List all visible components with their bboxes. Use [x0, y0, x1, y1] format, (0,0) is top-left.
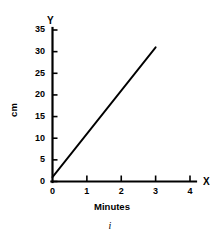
- x-tick-label: 1: [84, 186, 89, 196]
- line-chart: 05101520253035 01234 Y X Minutes cm i: [0, 0, 221, 237]
- y-axis-title: cm: [8, 103, 19, 117]
- x-axis-title: Minutes: [94, 201, 130, 212]
- x-tick-label: 4: [187, 186, 192, 196]
- y-axis-tick-labels: 05101520253035: [35, 24, 45, 186]
- y-tick-label: 0: [40, 176, 45, 186]
- y-tick-label: 35: [35, 24, 45, 34]
- y-tick-label: 25: [35, 68, 45, 78]
- x-tick-label: 0: [50, 186, 55, 196]
- y-tick-label: 5: [40, 154, 45, 164]
- y-axis-letter: Y: [47, 15, 54, 26]
- y-tick-label: 10: [35, 133, 45, 143]
- y-tick-label: 30: [35, 46, 45, 56]
- data-series-line: [53, 47, 156, 177]
- y-tick-label: 20: [35, 89, 45, 99]
- figure-caption: i: [109, 220, 112, 231]
- y-tick-label: 15: [35, 111, 45, 121]
- figure-container: 05101520253035 01234 Y X Minutes cm i: [0, 0, 221, 237]
- x-axis-tick-labels: 01234: [50, 186, 193, 196]
- x-tick-label: 3: [153, 186, 158, 196]
- x-tick-label: 2: [119, 186, 124, 196]
- x-axis-letter: X: [203, 176, 210, 187]
